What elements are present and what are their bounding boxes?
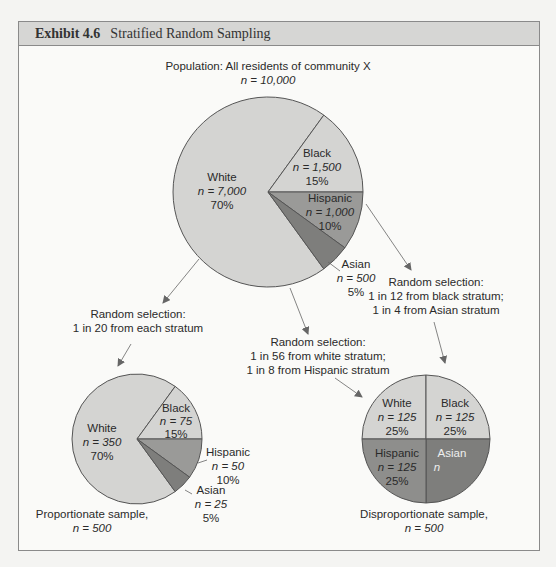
disproportionate-pie [362, 375, 490, 503]
disp-white-name: White [382, 397, 411, 409]
asian-leader-line [328, 262, 340, 271]
disp-caption-line1: Disproportionate sample, [360, 508, 488, 520]
disp-white-n: n = 125 [378, 411, 417, 423]
selection-wh-line3: 1 in 8 from Hispanic stratum [246, 364, 389, 376]
prop-black-pct: 15% [164, 428, 187, 440]
pop-white-pct: 70% [210, 199, 233, 211]
pop-white-n: n = 7,000 [198, 185, 247, 197]
arrow-to-proportionate-pie [118, 344, 131, 366]
selection-wh-line2: 1 in 56 from white stratum; [250, 350, 386, 362]
selection-ba-line1: Random selection: [388, 276, 483, 288]
prop-black-n: n = 75 [160, 415, 193, 427]
arrow-to-black-asian-selection [366, 204, 411, 270]
selection-ba-line3: 1 in 4 from Asian stratum [372, 304, 499, 316]
disp-black-n: n = 125 [436, 411, 475, 423]
pop-asian-name: Asian [342, 258, 371, 270]
disp-asian-n: n [434, 461, 440, 473]
prop-white-pct: 70% [90, 450, 113, 462]
disp-black-name: Black [441, 397, 469, 409]
prop-caption-line2: n = 500 [73, 522, 112, 534]
pop-black-pct: 15% [305, 175, 328, 187]
disp-hispanic-name: Hispanic [375, 447, 419, 459]
disp-hispanic-n: n = 125 [378, 461, 417, 473]
prop-black-name: Black [162, 402, 190, 414]
arrow-to-disproportionate-pie-left [335, 378, 362, 397]
selection-proportionate-line1: Random selection: [90, 308, 185, 320]
selection-wh-line1: Random selection: [270, 336, 365, 348]
disp-black-pct: 25% [443, 425, 466, 437]
disp-white-pct: 25% [385, 425, 408, 437]
prop-asian-n: n = 25 [195, 498, 228, 510]
arrow-to-disproportionate-pie-right [434, 322, 445, 363]
disp-hispanic-pct: 25% [385, 475, 408, 487]
pop-hispanic-pct: 10% [318, 220, 341, 232]
prop-asian-name: Asian [197, 484, 226, 496]
selection-proportionate-line2: 1 in 20 from each stratum [73, 322, 203, 334]
prop-hispanic-n: n = 50 [212, 460, 245, 472]
pop-black-name: Black [303, 147, 331, 159]
prop-hispanic-leader [198, 460, 207, 463]
selection-ba-line2: 1 in 12 from black stratum; [368, 290, 504, 302]
prop-asian-leader [185, 490, 192, 494]
pop-asian-pct: 5% [348, 286, 365, 298]
prop-white-n: n = 350 [83, 436, 122, 448]
pop-white-name: White [207, 171, 236, 183]
pop-hispanic-n: n = 1,000 [306, 206, 355, 218]
stratified-sampling-diagram: Population: All residents of community X… [0, 0, 556, 567]
prop-white-name: White [87, 422, 116, 434]
population-n: n = 10,000 [241, 74, 296, 86]
disp-asian-name: Asian [438, 447, 467, 459]
prop-caption-line1: Proportionate sample, [36, 508, 149, 520]
pop-asian-n: n = 500 [337, 272, 376, 284]
arrow-to-white-hispanic-selection [290, 288, 308, 334]
prop-asian-pct: 5% [203, 512, 220, 524]
population-title: Population: All residents of community X [165, 60, 371, 72]
arrow-to-proportionate-selection [163, 259, 199, 303]
pop-hispanic-name: Hispanic [308, 192, 352, 204]
disp-caption-line2: n = 500 [405, 522, 444, 534]
prop-hispanic-name: Hispanic [206, 446, 250, 458]
pop-black-n: n = 1,500 [293, 161, 342, 173]
